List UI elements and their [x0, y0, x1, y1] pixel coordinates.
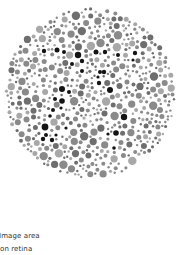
caption-line-1: Image area — [0, 232, 40, 241]
caption-line-2: on retina — [0, 245, 32, 254]
background-dots — [5, 7, 175, 178]
ishihara-plate — [0, 0, 177, 190]
